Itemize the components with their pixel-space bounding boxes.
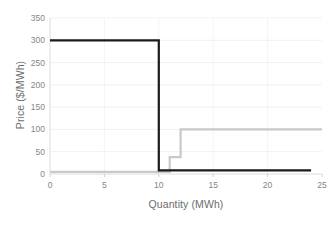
plot-area-background bbox=[50, 18, 322, 174]
chart-canvas bbox=[0, 0, 335, 225]
x-axis-title: Quantity (MWh) bbox=[50, 198, 322, 210]
x-tick-label-10: 10 bbox=[147, 180, 171, 190]
x-tick-label-25: 25 bbox=[310, 180, 334, 190]
x-tick-label-20: 20 bbox=[256, 180, 280, 190]
y-axis-title-wrapper: Price ($/MWh) bbox=[2, 0, 22, 190]
x-tick-label-15: 15 bbox=[201, 180, 225, 190]
y-axis-title: Price ($/MWh) bbox=[13, 0, 27, 190]
x-tick-label-5: 5 bbox=[92, 180, 116, 190]
x-tick-label-0: 0 bbox=[38, 180, 62, 190]
price-quantity-chart: 350 300 250 200 150 100 50 0 0 5 10 15 2… bbox=[0, 0, 335, 225]
